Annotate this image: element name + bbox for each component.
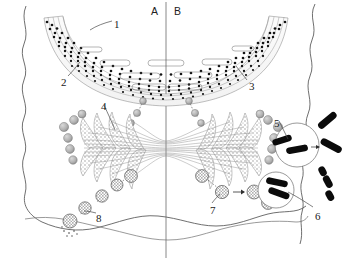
callout-label-2: 2 — [61, 77, 67, 88]
callout-label-1: 1 — [114, 19, 120, 30]
callout-label-5: 5 — [274, 118, 280, 129]
callout-label-3: 3 — [249, 81, 255, 92]
callout-label-7: 7 — [210, 205, 216, 216]
callout-label-4: 4 — [101, 101, 107, 112]
region-label-a: A — [151, 6, 158, 17]
callout-label-8: 8 — [96, 213, 102, 224]
callout-label-6: 6 — [315, 211, 321, 222]
figure-canvas: A B 1 2 3 4 5 6 7 8 — [0, 0, 346, 273]
biology-diagram-svg — [0, 0, 346, 273]
region-label-b: B — [174, 6, 181, 17]
